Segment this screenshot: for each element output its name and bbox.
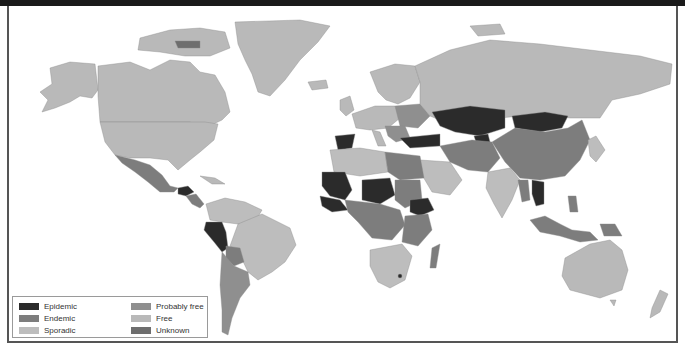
legend-label: Epidemic [44, 302, 77, 312]
region-cuba [200, 176, 225, 184]
region-cambodia-vietnam [532, 180, 544, 206]
region-central-america [186, 194, 204, 208]
region-russia [415, 40, 672, 120]
legend-swatch-epidemic [19, 303, 39, 310]
region-korea-japan [588, 136, 605, 162]
legend-swatch-endemic [19, 315, 39, 322]
legend-label: Probably free [156, 302, 204, 312]
region-libya-egypt [385, 152, 424, 180]
region-iceland [308, 80, 328, 90]
map-legend: Epidemic Endemic Sporadic Probably free … [12, 296, 208, 338]
region-canada [98, 60, 230, 128]
legend-column-2: Probably free Free Unknown [131, 301, 204, 337]
legend-label: Sporadic [44, 326, 76, 336]
region-russia-arctic-islands [470, 24, 505, 36]
legend-column-1: Epidemic Endemic Sporadic [19, 301, 77, 337]
region-peru [204, 222, 228, 252]
region-saudi-arabia [420, 160, 462, 195]
region-southern-africa [370, 244, 412, 288]
region-papua-new-guinea [600, 224, 622, 236]
region-india [486, 168, 520, 218]
region-nigeria-central [345, 200, 405, 240]
region-guatemala-honduras [178, 186, 194, 196]
region-uk [340, 96, 354, 116]
region-usa [100, 122, 218, 170]
region-philippines [568, 196, 578, 212]
region-mauritania-mali [322, 172, 352, 200]
legend-swatch-unknown [131, 327, 151, 334]
region-madagascar [430, 244, 440, 268]
region-tasmania [610, 300, 616, 306]
legend-label: Endemic [44, 314, 75, 324]
legend-swatch-probably-free [131, 303, 151, 310]
region-new-zealand [650, 290, 668, 318]
region-australia [562, 240, 628, 298]
region-lesotho [398, 274, 402, 278]
region-alaska [40, 62, 98, 112]
legend-item-unknown: Unknown [131, 325, 204, 336]
legend-label: Free [156, 314, 172, 324]
region-unknown-arctic-island [175, 41, 200, 48]
region-ethiopia [410, 198, 434, 216]
region-myanmar [518, 180, 530, 202]
legend-swatch-free [131, 315, 151, 322]
region-niger-chad [362, 178, 395, 204]
legend-item-free: Free [131, 313, 204, 324]
region-kazakhstan [432, 106, 505, 136]
legend-item-sporadic: Sporadic [19, 325, 77, 336]
region-spain [335, 134, 355, 150]
region-scandinavia [370, 64, 420, 104]
region-italy [372, 130, 386, 146]
region-indonesia [530, 216, 598, 242]
legend-label: Unknown [156, 326, 189, 336]
legend-item-epidemic: Epidemic [19, 301, 77, 312]
legend-swatch-sporadic [19, 327, 39, 334]
region-east-africa [402, 214, 432, 246]
legend-item-probably-free: Probably free [131, 301, 204, 312]
legend-item-endemic: Endemic [19, 313, 77, 324]
